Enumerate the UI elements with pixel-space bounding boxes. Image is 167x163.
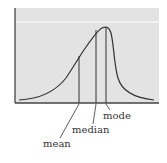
mean-label: mean <box>43 138 71 149</box>
median-label: median <box>72 124 109 135</box>
median-leader <box>93 104 96 124</box>
skew-distribution-diagram <box>0 0 167 163</box>
mode-label: mode <box>103 110 131 121</box>
